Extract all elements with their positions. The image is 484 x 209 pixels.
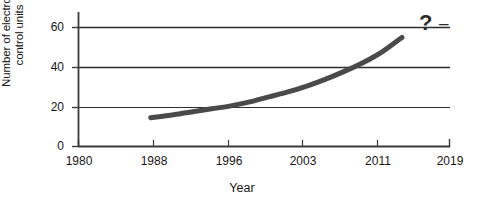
y-tick-label-0: 0 [30, 139, 64, 153]
y-tick-label-60: 60 [30, 20, 64, 34]
x-tick-label-2011: 2011 [353, 154, 403, 168]
x-tick-label-1988: 1988 [129, 154, 179, 168]
x-tick-label-2019: 2019 [425, 154, 475, 168]
chart-figure: Number of electronic control units 60 40… [0, 0, 484, 209]
y-axis-title: Number of electronic control units [0, 0, 30, 100]
trend-dash-annotation: – [439, 13, 448, 35]
x-tick-label-2003: 2003 [278, 154, 328, 168]
chart-plot-area [0, 0, 484, 209]
x-tick-label-1996: 1996 [204, 154, 254, 168]
y-tick-label-20: 20 [30, 100, 64, 114]
x-tick-label-1980: 1980 [54, 154, 104, 168]
y-axis-title-line-1: Number of electronic [0, 0, 13, 87]
y-axis-title-line-2: control units [13, 0, 26, 87]
y-tick-label-40: 40 [30, 60, 64, 74]
data-series-line [151, 37, 402, 117]
question-mark-annotation: ? [419, 12, 432, 34]
x-axis-title: Year [0, 181, 484, 195]
